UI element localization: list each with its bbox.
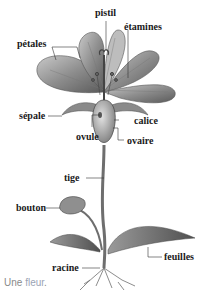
label-ovaire: ovaire — [127, 136, 153, 146]
leaves — [50, 226, 195, 254]
caption-prefix: Une — [4, 277, 25, 288]
label-tige: tige — [64, 173, 80, 183]
figure-caption: Une fleur. — [4, 277, 47, 288]
label-feuilles: feuilles — [164, 252, 194, 262]
label-pistil: pistil — [95, 8, 116, 18]
label-bouton: bouton — [16, 203, 46, 213]
label-sepale: sépale — [19, 111, 45, 121]
label-ovule: ovule — [76, 132, 99, 142]
caption-accent: fleur — [25, 277, 44, 288]
label-petales: pétales — [17, 39, 46, 49]
label-racine: racine — [52, 263, 79, 273]
label-calice: calice — [134, 116, 158, 126]
roots — [80, 268, 135, 290]
label-etamines: étamines — [124, 22, 162, 32]
caption-suffix: . — [44, 277, 47, 288]
